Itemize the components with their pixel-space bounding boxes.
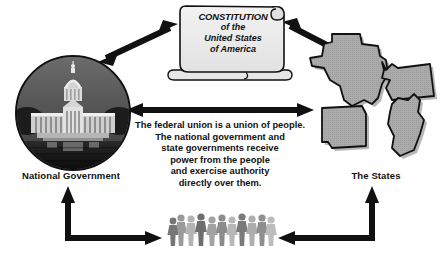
arrow-national-to-states (126, 103, 314, 117)
constitution-line-4: of America (190, 44, 276, 55)
constitution-line-1: CONSTITUTION (190, 11, 276, 22)
center-text-line-4: power from the people (124, 155, 316, 167)
center-explanation-text: The federal union is a union of people. … (124, 120, 316, 190)
constitution-line-2: of the (190, 22, 276, 33)
capitol-building-photo (15, 55, 131, 171)
arrow-people-to-national (61, 186, 162, 245)
center-text-line-5: and exercise authority (124, 166, 316, 178)
center-text-line-3: state governments receive (124, 143, 316, 155)
center-text-line-1: The federal union is a union of people. (124, 120, 316, 132)
constitution-text: CONSTITUTION of the United States of Ame… (190, 11, 276, 55)
constitution-line-3: United States (190, 33, 276, 44)
state-shape-maine (388, 94, 427, 159)
arrow-people-to-states (278, 186, 379, 245)
center-text-line-6: directly over them. (124, 178, 316, 190)
state-shape-arkansas (322, 106, 369, 151)
label-national-government: National Government (14, 170, 128, 181)
arrow-national-to-constitution (98, 20, 178, 66)
diagram-canvas: CONSTITUTION of the United States of Ame… (0, 0, 440, 266)
state-shape-washington (382, 62, 437, 103)
crowd-silhouette-icon (167, 213, 276, 246)
label-the-states: The States (338, 170, 414, 181)
capitol-illustration (17, 57, 129, 169)
center-text-line-2: The national government and (124, 132, 316, 144)
